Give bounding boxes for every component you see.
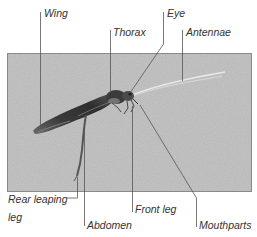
label-mouthparts: Mouthparts — [199, 219, 252, 231]
label-front-leg: Front leg — [135, 203, 176, 215]
label-abdomen: Abdomen — [87, 219, 132, 231]
label-antennae: Antennae — [186, 26, 231, 38]
label-rear-leaping-leg-line1: Rear leaping — [8, 193, 68, 205]
label-eye: Eye — [167, 7, 185, 19]
label-thorax: Thorax — [113, 26, 146, 38]
insect-anatomy-diagram: Wing Thorax Eye Antennae Rear leaping le… — [0, 0, 257, 237]
label-wing: Wing — [44, 7, 68, 19]
label-rear-leaping-leg-line2: leg — [8, 211, 22, 223]
